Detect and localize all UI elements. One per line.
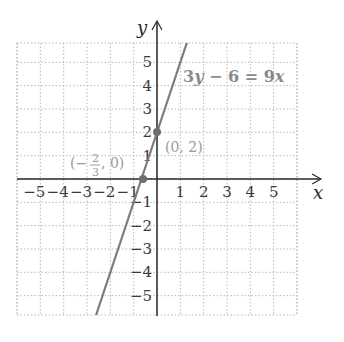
equation-label: 3y − 6 = 9x xyxy=(183,67,285,86)
x-tick-label: 5 xyxy=(269,183,279,201)
y-tick-label: 2 xyxy=(142,123,152,141)
y-tick-label: −3 xyxy=(130,240,152,258)
x-tick-label: 3 xyxy=(222,183,232,201)
x-tick-label: −3 xyxy=(70,183,92,201)
point-0-2 xyxy=(153,128,161,136)
fraction-numerator: 2 xyxy=(92,152,99,165)
x-tick-label: 2 xyxy=(199,183,209,201)
point-neg-two-thirds-0 xyxy=(139,175,147,183)
y-tick-label: 3 xyxy=(142,100,152,118)
y-tick-label: −4 xyxy=(130,263,152,281)
x-axis-label: x xyxy=(313,182,323,203)
point-label-x-intercept-open: (− xyxy=(70,155,87,171)
y-tick-label: 4 xyxy=(142,77,152,95)
x-tick-label: −2 xyxy=(93,183,115,201)
point-label-0-2: (0, 2) xyxy=(165,139,203,155)
coordinate-plane: x y −5−4−3−2−112345 54321−1−2−3−4−5 3y −… xyxy=(0,0,344,342)
x-tick-label: −4 xyxy=(47,183,69,201)
x-tick-label: 4 xyxy=(246,183,256,201)
y-tick-label: −2 xyxy=(130,217,152,235)
x-tick-label: −5 xyxy=(23,183,45,201)
y-tick-label: −5 xyxy=(130,287,152,305)
point-label-x-intercept-close: , 0) xyxy=(101,155,124,171)
y-axis-label: y xyxy=(136,17,148,38)
y-tick-label: 5 xyxy=(142,53,152,71)
fraction-denominator: 3 xyxy=(92,166,99,179)
x-tick-label: 1 xyxy=(176,183,186,201)
